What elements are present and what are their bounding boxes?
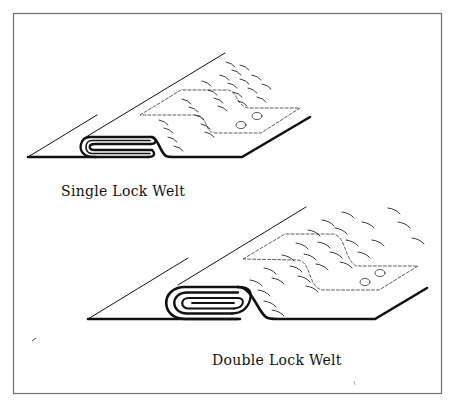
single-lock-welt-diagram <box>28 53 310 157</box>
speck-mark <box>354 381 355 385</box>
double-lock-welt-diagram <box>88 207 427 319</box>
single-lock-welt-label: Single Lock Welt <box>61 183 185 199</box>
diagram-canvas: Single Lock Welt Double Lock Welt <box>0 0 450 403</box>
speck-mark <box>32 338 36 341</box>
figure-frame <box>14 14 442 394</box>
double-lock-welt-label: Double Lock Welt <box>212 352 342 368</box>
